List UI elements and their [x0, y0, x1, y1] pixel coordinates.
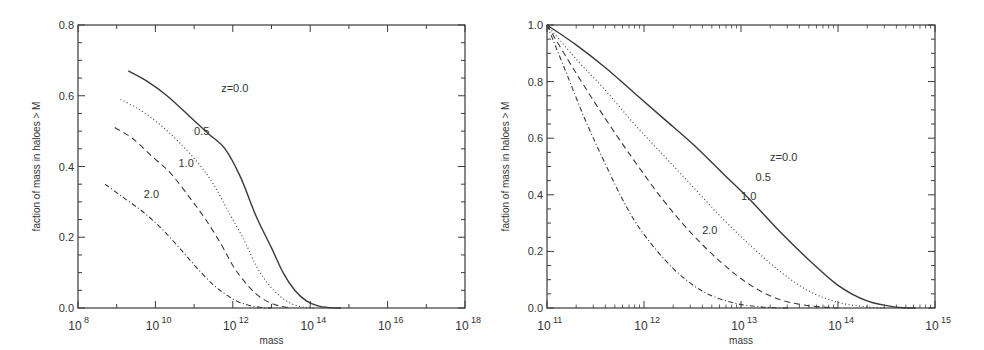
curve-label: z=0.0: [770, 151, 797, 163]
y-tick-label: 0.0: [528, 302, 543, 314]
x-axis: 10810101012101410161018mass: [68, 25, 481, 346]
y-tick-label: 0.6: [528, 132, 543, 144]
curve-label: 1.0: [179, 157, 194, 169]
x-tick-exponent: 10: [161, 315, 171, 325]
y-tick-label: 0.2: [59, 231, 74, 243]
x-tick-label: 10: [634, 319, 648, 333]
x-tick-exponent: 12: [239, 315, 249, 325]
y-tick-label: 0.4: [59, 161, 74, 173]
x-tick-exponent: 11: [553, 315, 562, 325]
chart-left-mass-fraction-wide: 10810101012101410161018mass0.00.20.40.60…: [0, 0, 492, 350]
x-tick-exponent: 12: [650, 315, 660, 325]
curve-labels: z=0.00.51.02.0: [702, 151, 797, 237]
x-tick-exponent: 16: [394, 315, 404, 325]
y-tick-label: 0.6: [59, 90, 74, 102]
series-group: [105, 71, 341, 308]
series-line-z00: [128, 71, 341, 308]
series-line-20: [105, 184, 271, 308]
chart-right-canvas: 10111012101310141015mass0.00.20.40.60.81…: [492, 0, 984, 350]
y-axis-label: faction of mass in haloes > M: [31, 102, 42, 232]
x-tick-exponent: 14: [844, 315, 854, 325]
curve-label: z=0.0: [221, 82, 248, 94]
y-tick-label: 0.4: [528, 189, 543, 201]
x-tick-label: 10: [925, 319, 939, 333]
x-tick-label: 10: [223, 319, 237, 333]
x-tick-label: 10: [146, 319, 160, 333]
x-tick-exponent: 14: [316, 315, 326, 325]
curve-labels: z=0.00.51.02.0: [144, 82, 249, 200]
curve-label: 0.5: [756, 171, 771, 183]
x-tick-label: 10: [537, 319, 551, 333]
x-tick-exponent: 8: [84, 315, 89, 325]
x-tick-label: 10: [301, 319, 315, 333]
curve-label: 2.0: [144, 188, 159, 200]
y-tick-label: 0.0: [59, 302, 74, 314]
curve-label: 2.0: [702, 224, 717, 236]
series-line-z00: [547, 25, 916, 308]
x-tick-exponent: 18: [471, 315, 481, 325]
x-tick-label: 10: [455, 319, 469, 333]
x-axis: 10111012101310141015mass: [537, 25, 951, 346]
y-tick-label: 0.8: [528, 76, 543, 88]
chart-left-canvas: 10810101012101410161018mass0.00.20.40.60…: [0, 0, 492, 350]
y-tick-label: 1.0: [528, 19, 543, 31]
y-axis: 0.00.20.40.60.8faction of mass in haloes…: [31, 19, 465, 314]
x-tick-label: 10: [731, 319, 745, 333]
curve-label: 1.0: [741, 190, 756, 202]
series-line-10: [547, 25, 838, 308]
series-line-20: [547, 25, 790, 308]
x-tick-label: 10: [68, 319, 82, 333]
x-axis-label: mass: [729, 335, 753, 346]
x-axis-label: mass: [260, 335, 284, 346]
x-tick-exponent: 15: [941, 315, 951, 325]
chart-right-mass-fraction-zoom: 10111012101310141015mass0.00.20.40.60.81…: [492, 0, 984, 350]
x-tick-exponent: 13: [747, 315, 757, 325]
x-tick-label: 10: [378, 319, 392, 333]
y-tick-label: 0.8: [59, 19, 74, 31]
y-axis: 0.00.20.40.60.81.0faction of mass in hal…: [500, 19, 935, 314]
series-group: [547, 25, 916, 308]
curve-label: 0.5: [194, 125, 209, 137]
series-line-10: [115, 128, 291, 308]
plot-frame: [78, 25, 465, 308]
y-axis-label: faction of mass in haloes > M: [500, 102, 511, 232]
y-tick-label: 0.2: [528, 245, 543, 257]
x-tick-label: 10: [828, 319, 842, 333]
